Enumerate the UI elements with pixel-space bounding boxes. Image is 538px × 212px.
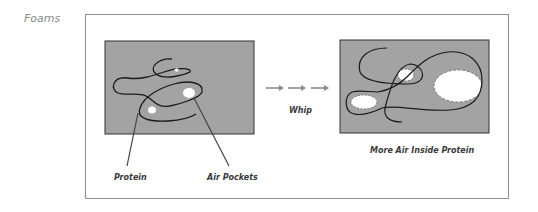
- air-pocket-medium: [183, 88, 195, 98]
- air-pockets-label: Air Pockets: [207, 173, 258, 182]
- air-pocket-center: [398, 69, 414, 81]
- whip-arrows: [266, 85, 329, 91]
- after-caption: More Air Inside Protein: [370, 146, 474, 155]
- foam-diagram: [0, 0, 538, 212]
- air-pocket-left: [148, 107, 156, 114]
- after-panel: [340, 40, 489, 133]
- whip-label: Whip: [289, 106, 312, 115]
- protein-label: Protein: [114, 173, 147, 182]
- before-panel: [105, 41, 254, 166]
- air-pocket-left: [351, 95, 377, 109]
- air-pocket-large: [434, 70, 482, 102]
